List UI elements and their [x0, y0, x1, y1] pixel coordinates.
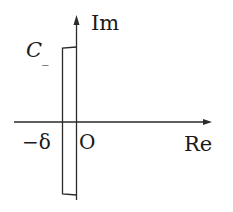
origin-label: O [79, 130, 95, 154]
imaginary-axis-arrow-icon [74, 15, 80, 25]
imaginary-axis-label: Im [91, 11, 119, 35]
real-axis-label: Re [184, 132, 212, 156]
contour-label-subscript: _ [42, 51, 49, 66]
real-axis-arrow-icon [203, 119, 212, 125]
contour-c-minus [63, 47, 77, 195]
complex-plane-diagram: Im Re O −δ C _ [0, 0, 233, 212]
contour-label: C [26, 38, 42, 62]
neg-delta-label: −δ [22, 130, 51, 154]
